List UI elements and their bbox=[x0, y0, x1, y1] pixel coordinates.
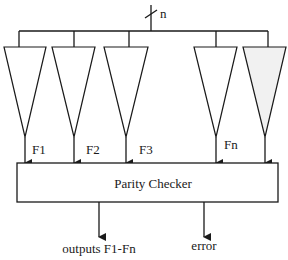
function-block-fn bbox=[194, 47, 237, 137]
label-error: error bbox=[191, 238, 217, 253]
function-block-spare bbox=[243, 47, 286, 137]
input-bus: n bbox=[19, 5, 268, 47]
bus-width-label: n bbox=[160, 6, 167, 21]
function-block-f2 bbox=[52, 47, 95, 137]
label-outputs: outputs F1-Fn bbox=[62, 241, 136, 256]
function-blocks bbox=[4, 47, 286, 137]
parity-checker-label: Parity Checker bbox=[114, 176, 192, 191]
label-f3: F3 bbox=[139, 142, 153, 157]
function-block-f3 bbox=[104, 47, 148, 137]
checker-outputs: outputs F1-Fn error bbox=[62, 202, 217, 256]
label-fn: Fn bbox=[224, 137, 238, 152]
parity-checker-diagram: n F1 F2 F3 Fn Parity Checker outputs F1- bbox=[0, 0, 288, 260]
label-f2: F2 bbox=[86, 142, 100, 157]
parity-checker: Parity Checker bbox=[17, 163, 278, 202]
function-outputs: F1 F2 F3 Fn bbox=[25, 137, 265, 163]
function-block-f1 bbox=[4, 47, 46, 137]
label-f1: F1 bbox=[32, 142, 46, 157]
